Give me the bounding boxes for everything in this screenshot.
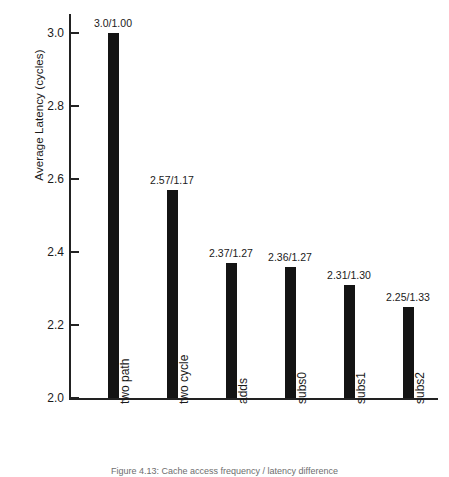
bar [285,267,296,398]
y-tick-mark [71,105,79,107]
y-tick-mark [71,397,79,399]
x-tick-label: subs0 [296,372,308,404]
x-tick-label: subs1 [355,372,367,404]
y-tick-label: 2.0 [24,392,64,404]
bar-value-label: 3.0/1.00 [80,18,146,29]
y-tick-mark [71,32,79,34]
x-tick-label: two cycle [178,355,190,404]
y-tick-label: 2.6 [24,173,64,185]
bar-value-label: 2.57/1.17 [139,175,205,186]
y-tick-mark [71,178,79,180]
y-tick-mark [71,251,79,253]
x-tick-label: two path [119,359,131,404]
bar [344,285,355,398]
x-tick-label: adds [237,378,249,404]
bar-value-label: 2.37/1.27 [198,248,264,259]
bar [108,33,119,398]
y-tick-label: 2.2 [24,319,64,331]
bar-value-label: 2.31/1.30 [316,270,382,281]
x-tick-label: subs2 [414,372,426,404]
figure-caption: Figure 4.13: Cache access frequency / la… [0,466,449,477]
bar [403,307,414,398]
bar [226,263,237,398]
bar-value-label: 2.25/1.33 [375,292,441,303]
y-tick-mark [71,324,79,326]
y-tick-label: 2.8 [24,100,64,112]
bar-value-label: 2.36/1.27 [257,252,323,263]
y-axis-line [69,14,71,400]
bar [167,190,178,398]
y-tick-label: 2.4 [24,246,64,258]
y-tick-label: 3.0 [24,27,64,39]
